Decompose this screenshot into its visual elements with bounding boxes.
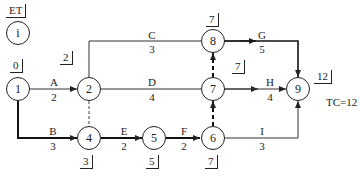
- et-node-9: 12: [314, 70, 332, 84]
- activity-a-name: A: [44, 76, 64, 88]
- et-node-6: 7: [205, 155, 218, 169]
- et-node-7: 7: [232, 60, 245, 74]
- activity-e-name: E: [114, 125, 134, 137]
- activity-i-duration: 3: [252, 140, 272, 152]
- node-4: 4: [77, 126, 101, 150]
- total-duration-label: TC=12: [326, 96, 357, 108]
- activity-g-duration: 5: [252, 43, 272, 55]
- node-2: 2: [77, 77, 101, 101]
- activity-f-duration: 2: [174, 140, 194, 152]
- arrow-c: [89, 41, 256, 77]
- et-node-5: 5: [146, 155, 159, 169]
- node-1: 1: [6, 77, 30, 101]
- activity-c-duration: 3: [142, 43, 162, 55]
- node-8: 8: [201, 29, 225, 53]
- activity-b-duration: 3: [43, 140, 63, 152]
- legend-et-label: ET: [6, 4, 26, 18]
- activity-b-name: B: [43, 125, 63, 137]
- legend-node: i: [6, 21, 30, 45]
- et-node-2: 2: [60, 51, 73, 65]
- node-5: 5: [142, 126, 166, 150]
- activity-i-name: I: [252, 125, 272, 137]
- et-node-8: 7: [206, 13, 219, 27]
- et-node-4: 3: [80, 155, 93, 169]
- et-node-1: 0: [10, 59, 23, 73]
- activity-d-duration: 4: [142, 91, 162, 103]
- activity-g-name: G: [252, 29, 272, 41]
- activity-d-name: D: [142, 76, 162, 88]
- activity-f-name: F: [174, 125, 194, 137]
- node-6: 6: [201, 126, 225, 150]
- node-7: 7: [201, 77, 225, 101]
- activity-h-name: H: [260, 76, 280, 88]
- activity-h-duration: 4: [260, 91, 280, 103]
- node-9: 9: [286, 77, 310, 101]
- activity-a-duration: 2: [44, 91, 64, 103]
- activity-e-duration: 2: [114, 140, 134, 152]
- activity-c-name: C: [142, 29, 162, 41]
